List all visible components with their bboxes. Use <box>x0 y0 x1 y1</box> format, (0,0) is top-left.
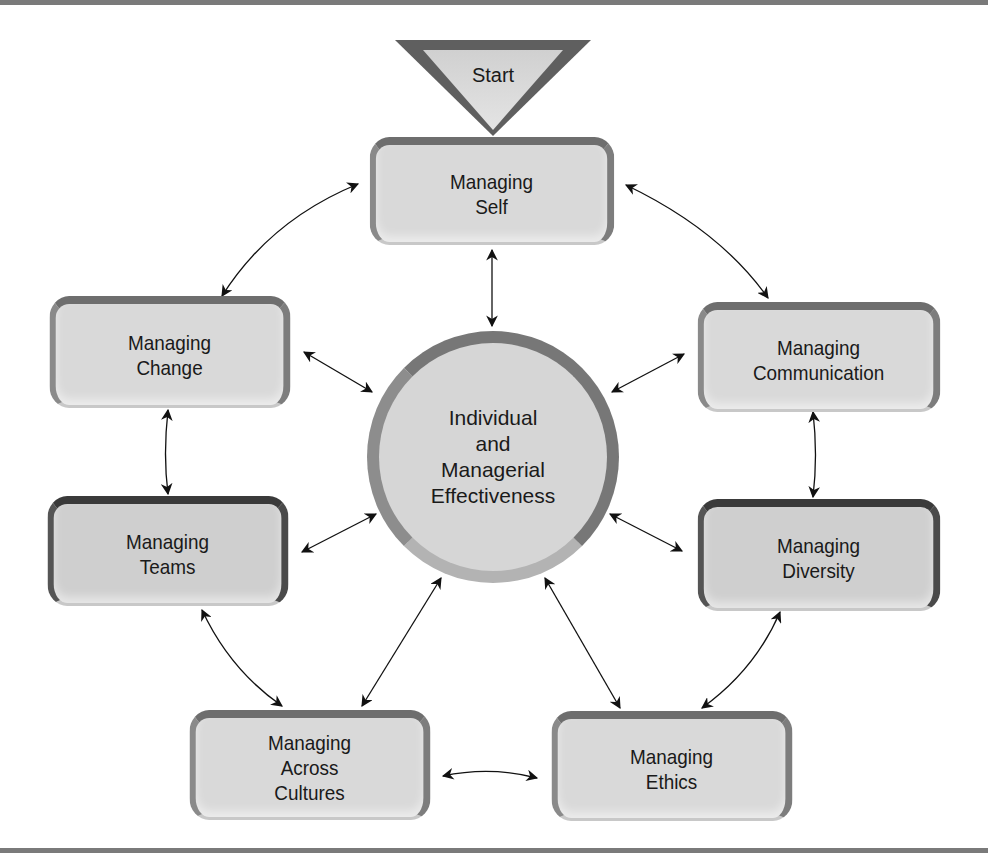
node-managing-diversity: Managing Diversity <box>698 499 941 611</box>
node-managing-communication: Managing Communication <box>698 302 941 412</box>
hub-individual-managerial-effectiveness: Individual and Managerial Effectiveness <box>367 331 619 583</box>
node-label: Managing Self <box>450 169 533 219</box>
node-managing-self: Managing Self <box>370 137 615 245</box>
node-managing-across-cultures: Managing Across Cultures <box>189 710 430 820</box>
node-managing-ethics: Managing Ethics <box>551 711 792 821</box>
node-label: Managing Change <box>128 330 211 380</box>
node-label: Managing Ethics <box>630 744 713 794</box>
start-label: Start <box>393 64 593 87</box>
node-label: Managing Teams <box>126 529 209 579</box>
node-label: Managing Diversity <box>777 533 860 583</box>
start-triangle-icon <box>393 38 593 138</box>
node-label: Managing Communication <box>753 335 884 385</box>
hub-label: Individual and Managerial Effectiveness <box>431 405 556 509</box>
node-managing-teams: Managing Teams <box>47 496 288 606</box>
start-marker: Start <box>393 38 593 138</box>
bottom-rule <box>0 848 988 853</box>
node-managing-change: Managing Change <box>49 296 290 408</box>
node-label: Managing Across Cultures <box>268 730 351 805</box>
